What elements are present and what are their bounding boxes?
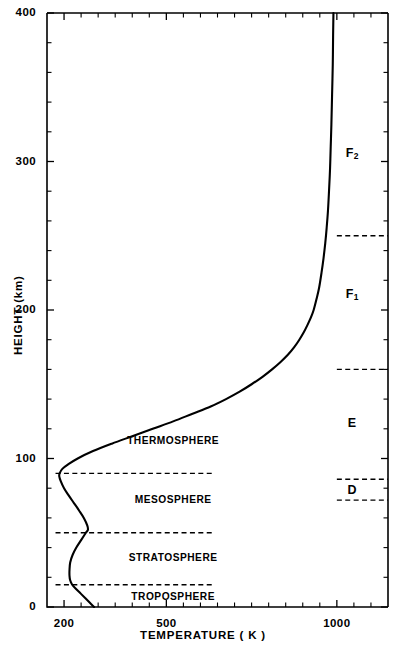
y-tick-label: 300: [0, 155, 36, 167]
plot-area: [0, 0, 406, 648]
atmosphere-temperature-profile-chart: 01002003004002005001000THERMOSPHEREMESOS…: [0, 0, 406, 648]
ionosphere-layer-label: F1: [327, 287, 377, 301]
atmosphere-layer-label: MESOSPHERE: [113, 494, 233, 505]
ticks-group: [47, 13, 388, 607]
y-tick-label: 400: [0, 6, 36, 18]
x-tick-label: 1000: [307, 617, 367, 629]
ionosphere-layer-label: E: [327, 416, 377, 430]
temperature-curve: [59, 13, 333, 607]
x-tick-label: 500: [136, 617, 196, 629]
y-axis-title: HEIGHT (km): [12, 215, 24, 355]
atmosphere-layer-label: STRATOSPHERE: [113, 552, 233, 563]
y-tick-label: 0: [0, 600, 36, 612]
x-axis-title: TEMPERATURE ( K ): [0, 629, 406, 641]
axes-group: [47, 13, 388, 607]
axis-frame-left-bottom: [47, 13, 388, 607]
y-tick-label: 100: [0, 452, 36, 464]
atmosphere-layer-label: THERMOSPHERE: [113, 435, 233, 446]
x-tick-label: 200: [34, 617, 94, 629]
atmosphere-layer-label: TROPOSPHERE: [113, 591, 233, 602]
temperature-curve-group: [59, 13, 333, 607]
ionosphere-layer-label: D: [327, 483, 377, 497]
ionosphere-layer-label: F2: [327, 146, 377, 160]
